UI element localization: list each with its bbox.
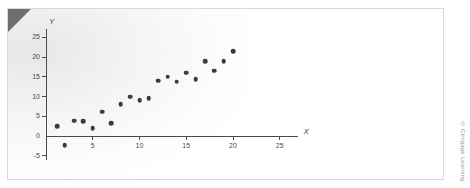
y-axis-tick <box>42 116 46 117</box>
y-axis-tick <box>42 155 46 156</box>
x-axis-tick-label: 20 <box>221 142 245 149</box>
scatter-point <box>137 98 142 103</box>
scatter-point <box>212 69 217 74</box>
x-axis-tick-label: 5 <box>81 142 105 149</box>
x-axis-tick-label: 25 <box>268 142 292 149</box>
y-axis-title: Y <box>49 18 54 26</box>
y-axis-line <box>46 29 47 159</box>
scatter-point <box>100 110 105 115</box>
y-axis-tick <box>42 76 46 77</box>
x-axis-tick <box>186 136 187 140</box>
x-axis-title: X <box>303 128 308 136</box>
plot-area: -50510152025510152025YX <box>8 9 445 179</box>
scatter-point <box>221 59 226 64</box>
x-axis-tick-label: 15 <box>174 142 198 149</box>
copyright-credit: © Cengage Learning <box>460 121 466 182</box>
scatter-point <box>109 121 114 126</box>
y-axis-tick <box>42 37 46 38</box>
x-axis-tick <box>139 136 140 140</box>
scatter-point <box>156 78 161 83</box>
x-axis-tick <box>279 136 280 140</box>
x-axis-tick <box>233 136 234 140</box>
figure-panel: -50510152025510152025YX <box>7 8 444 180</box>
scatter-point <box>193 77 198 82</box>
scatter-point <box>72 118 77 123</box>
scatter-point <box>62 143 67 148</box>
x-axis-tick <box>92 136 93 140</box>
y-axis-tick-label: 15 <box>14 73 40 80</box>
y-axis-tick-label: -5 <box>14 152 40 159</box>
scatter-point <box>175 80 180 85</box>
y-axis-tick-label: 0 <box>14 132 40 139</box>
x-axis-tick-label: 10 <box>128 142 152 149</box>
scatter-point <box>231 49 236 54</box>
scatter-point <box>203 59 208 64</box>
scatter-point <box>147 96 152 101</box>
scatter-point <box>90 126 95 131</box>
scatter-point <box>184 71 189 76</box>
y-axis-tick <box>42 96 46 97</box>
scatter-point <box>165 74 170 79</box>
scatter-point <box>55 124 60 129</box>
scatter-plot-figure: -50510152025510152025YX © Cengage Learni… <box>0 0 470 188</box>
y-axis-tick-label: 10 <box>14 93 40 100</box>
scatter-point <box>81 119 86 124</box>
x-axis-line <box>46 136 298 137</box>
y-axis-tick-label: 25 <box>14 33 40 40</box>
scatter-point <box>119 102 124 107</box>
y-axis-tick-label: 20 <box>14 53 40 60</box>
y-axis-tick <box>42 57 46 58</box>
y-axis-tick-label: 5 <box>14 112 40 119</box>
scatter-point <box>128 94 133 99</box>
